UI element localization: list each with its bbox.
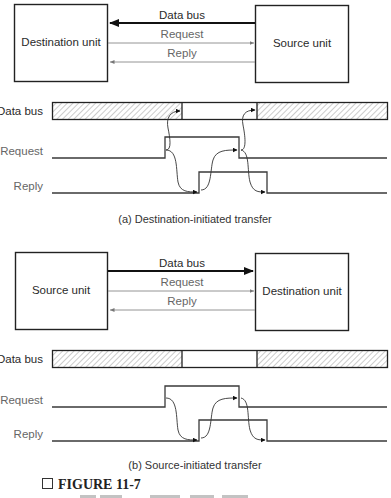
reply-waveform <box>52 420 387 441</box>
request-label: Request <box>161 28 205 40</box>
diagram-b-block: Source unit Destination unit Data bus Re… <box>16 253 349 331</box>
data-bus-invalid-segment <box>53 351 183 368</box>
diagram-a-block: Destination unit Source unit Data bus Re… <box>15 5 349 83</box>
timing-row-label: Reply <box>14 180 44 192</box>
caption-a: (a) Destination-initiated transfer <box>118 213 272 225</box>
timing-row-label: Reply <box>14 428 44 440</box>
timing-row-label: Data bus <box>0 353 43 365</box>
source-unit-label: Source unit <box>273 37 332 49</box>
data-bus-label: Data bus <box>159 257 205 269</box>
timing-diagram-a: Data bus Request Reply (a) Destination-i… <box>0 103 388 226</box>
reply-label: Reply <box>167 47 197 59</box>
causal-arrow <box>241 110 255 150</box>
causal-arrow <box>166 398 197 440</box>
timing-row-label: Data bus <box>0 105 43 117</box>
destination-unit-label: Destination unit <box>262 285 342 297</box>
reply-waveform <box>52 172 387 193</box>
causal-arrow <box>166 150 197 192</box>
request-waveform <box>52 386 387 407</box>
figure-canvas: Destination unit Source unit Data bus Re… <box>0 0 391 498</box>
data-bus-label: Data bus <box>159 9 205 21</box>
data-bus-invalid-segment <box>53 103 183 120</box>
causal-arrow <box>201 398 237 438</box>
figure-number: FIGURE 11-7 <box>58 477 141 492</box>
request-waveform <box>52 137 387 158</box>
destination-unit-label: Destination unit <box>21 36 101 48</box>
data-bus-invalid-segment <box>257 351 388 368</box>
timing-diagram-b: Data bus Request Reply (b) Source-initia… <box>0 351 388 472</box>
reply-label: Reply <box>167 295 197 307</box>
figure-label: FIGURE 11-7 <box>43 477 141 492</box>
source-unit-label: Source unit <box>32 284 91 296</box>
figure-checkbox-icon <box>43 479 53 489</box>
causal-arrow <box>241 150 265 192</box>
causal-arrow <box>241 398 265 440</box>
caption-b: (b) Source-initiated transfer <box>128 459 262 471</box>
timing-row-label: Request <box>0 394 44 406</box>
data-bus-invalid-segment <box>257 103 388 120</box>
causal-arrow <box>201 150 237 190</box>
request-label: Request <box>161 276 205 288</box>
timing-row-label: Request <box>0 145 44 157</box>
